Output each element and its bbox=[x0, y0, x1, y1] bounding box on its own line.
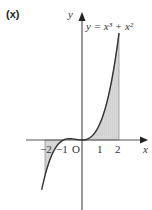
origin-label: O bbox=[72, 143, 80, 155]
cubic-graph: y x O −2 −1 1 2 y = x³ + x² bbox=[0, 0, 152, 210]
tick-label-2: 2 bbox=[115, 143, 121, 155]
tick-label-minus-1: −1 bbox=[56, 143, 68, 155]
y-axis-arrow-icon bbox=[79, 12, 86, 21]
y-axis-label: y bbox=[67, 8, 73, 20]
x-axis-label: x bbox=[142, 143, 148, 155]
shaded-region-right bbox=[82, 33, 119, 140]
tick-label-1: 1 bbox=[97, 143, 103, 155]
equation-label: y = x³ + x² bbox=[85, 20, 134, 32]
tick-label-minus-2: −2 bbox=[40, 143, 52, 155]
